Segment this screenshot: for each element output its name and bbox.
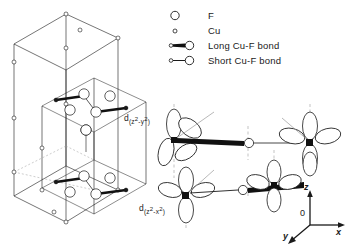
legend-item-long-bond: Long Cu-F bond <box>168 38 343 53</box>
cu-circle-icon <box>168 23 208 38</box>
cu-center-marker <box>271 182 277 188</box>
orbital-label-upper-close: ) <box>148 118 150 125</box>
legend-label-f: F <box>208 8 214 23</box>
figure-canvas: F Cu Long Cu-F bond <box>0 0 350 245</box>
long-bond-icon <box>168 38 208 53</box>
cu-center-marker <box>306 139 313 146</box>
cu-center-marker <box>182 192 189 199</box>
axis-label-x: x <box>336 227 341 237</box>
orbital-label-lower-close: ) <box>163 208 165 215</box>
legend-label-short-bond: Short Cu-F bond <box>208 53 281 68</box>
orbital-lobe <box>179 197 194 223</box>
axis-label-y: y <box>283 231 288 241</box>
legend-label-long-bond: Long Cu-F bond <box>208 38 279 53</box>
orbital-label-upper: d(z2-y2) <box>124 113 150 125</box>
legend-label-cu: Cu <box>208 23 221 38</box>
orbital-lobe <box>303 152 317 176</box>
f-atom-bridging <box>238 185 247 194</box>
axis-label-z: z <box>304 182 309 192</box>
f-circle-icon <box>168 8 208 23</box>
legend: F Cu Long Cu-F bond <box>168 8 343 68</box>
orbital-mid-lobe <box>303 152 317 176</box>
orbital-lobe <box>267 160 281 184</box>
orbital-lobe <box>314 126 343 147</box>
orbital-label-lower: d(z2-x2) <box>139 203 165 215</box>
f-atom-bridging <box>244 138 253 147</box>
short-bond-icon <box>168 53 208 68</box>
legend-item-short-bond: Short Cu-F bond <box>168 53 343 68</box>
orbital-lobe <box>267 188 281 212</box>
orbital-lobe <box>303 112 318 140</box>
legend-item-cu: Cu <box>168 23 343 38</box>
axis-label-origin: 0 <box>300 208 305 218</box>
legend-item-f: F <box>168 8 343 23</box>
